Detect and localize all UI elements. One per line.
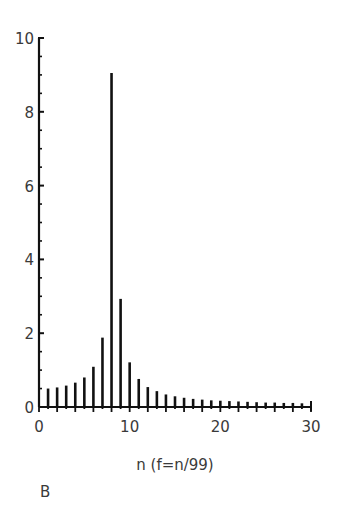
y-tick-label: 0 [24,399,34,417]
y-tick-label: 6 [24,178,34,196]
y-tick-label: 2 [24,325,34,343]
x-tick-label: 20 [211,418,230,436]
x-tick-labels: 0102030 [34,418,320,436]
y-tick-labels: 0246810 [15,30,34,417]
bar-series [48,73,302,407]
x-axis-label: n (f=n/99) [136,456,213,474]
spectrum-chart: 0246810 0102030 n (f=n/99) B [0,0,341,511]
x-tick-label: 0 [34,418,44,436]
x-tick-label: 30 [301,418,320,436]
y-axis [38,38,44,407]
panel-label: B [40,483,50,501]
y-tick-label: 10 [15,30,34,48]
y-tick-label: 4 [24,251,34,269]
y-tick-label: 8 [24,104,34,122]
x-tick-label: 10 [120,418,139,436]
